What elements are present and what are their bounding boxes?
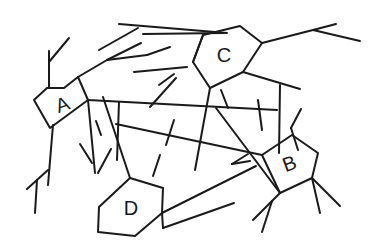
- connector-line: [262, 30, 313, 43]
- connector-line: [313, 30, 360, 41]
- connector-line: [103, 97, 130, 178]
- connector-line: [195, 88, 210, 170]
- node-c-label: C: [217, 44, 231, 66]
- node-c: C: [193, 26, 262, 88]
- polygon-network-diagram: ACBD: [0, 0, 381, 249]
- connector-line: [117, 102, 119, 160]
- connector-line: [162, 166, 256, 213]
- connector-line: [35, 180, 37, 213]
- connector-line: [258, 100, 262, 130]
- node-b: B: [262, 135, 318, 193]
- connector-line: [291, 109, 301, 128]
- connector-line: [134, 67, 187, 72]
- node-a: A: [34, 77, 88, 128]
- connector-line: [162, 213, 163, 228]
- connector-line: [96, 121, 101, 135]
- connector-line: [49, 38, 69, 62]
- connector-line: [147, 47, 170, 55]
- node-d: D: [98, 178, 163, 236]
- connector-line: [313, 24, 336, 30]
- node-d-label: D: [124, 197, 138, 219]
- connector-line: [221, 90, 228, 108]
- connector-line: [98, 149, 111, 173]
- connector-lines: [27, 24, 360, 232]
- connector-line: [166, 120, 174, 145]
- node-a-label: A: [52, 92, 73, 117]
- polygon-nodes: ACBD: [34, 26, 318, 236]
- connector-line: [78, 60, 107, 77]
- connector-line: [88, 100, 277, 110]
- connector-line: [153, 155, 160, 176]
- node-b-label: B: [279, 151, 299, 176]
- connector-line: [48, 125, 53, 185]
- connector-line: [243, 72, 300, 89]
- connector-line: [272, 193, 280, 201]
- connector-line: [80, 144, 92, 163]
